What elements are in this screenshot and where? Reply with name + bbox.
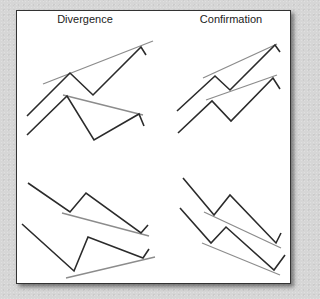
price-line-lower [178, 78, 280, 133]
diagram-art [0, 0, 304, 299]
trendline-lower [63, 95, 143, 115]
trendline-upper [62, 213, 149, 236]
panel-confirmation-bullish [177, 44, 280, 133]
trendline-upper [43, 41, 153, 84]
trendline-lower [202, 243, 280, 275]
trendline-upper [203, 44, 277, 78]
panel-confirmation-bearish [180, 178, 285, 275]
price-line-upper [28, 183, 148, 233]
panel-divergence-bullish [22, 183, 155, 278]
panel-divergence-bearish [27, 41, 153, 140]
price-line-lower [180, 208, 285, 270]
price-line-upper [27, 47, 146, 116]
trendline-lower [66, 257, 155, 278]
price-line-lower [27, 96, 144, 140]
price-line-upper [177, 45, 280, 111]
